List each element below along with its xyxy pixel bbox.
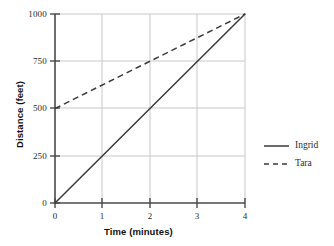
chart-canvas — [0, 0, 334, 246]
y-tick-label-0: 0 — [17, 198, 47, 208]
y-axis-title: Distance (feet) — [14, 81, 25, 148]
x-tick-label-0: 0 — [45, 211, 65, 221]
y-tick-label-250: 250 — [17, 151, 47, 161]
legend-label-tara: Tara — [295, 158, 312, 168]
x-tick-label-4: 4 — [235, 211, 255, 221]
x-tick-label-2: 2 — [140, 211, 160, 221]
legend-label-ingrid: Ingrid — [295, 140, 318, 150]
x-axis-title: Time (minutes) — [104, 226, 173, 237]
y-tick-label-750: 750 — [17, 56, 47, 66]
y-tick-label-1000: 1000 — [17, 9, 47, 19]
line-chart-figure: 1000 750 500 250 0 0 1 2 3 4 Distance (f… — [0, 0, 334, 246]
x-tick-label-1: 1 — [92, 211, 112, 221]
x-tick-label-3: 3 — [187, 211, 207, 221]
